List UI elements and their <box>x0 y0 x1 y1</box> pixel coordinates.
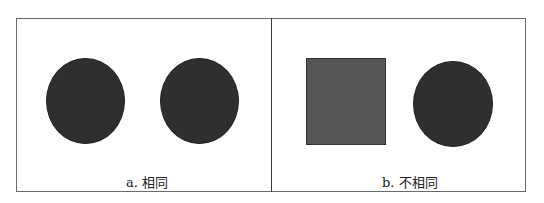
panel-b-caption: b. 不相同 <box>382 172 438 191</box>
square-shape <box>306 58 386 145</box>
panel-a-caption: a. 相同 <box>126 172 168 191</box>
circle-shape <box>413 61 493 147</box>
panel-divider <box>271 18 272 192</box>
circle-shape <box>46 58 125 144</box>
circle-shape <box>160 58 239 144</box>
